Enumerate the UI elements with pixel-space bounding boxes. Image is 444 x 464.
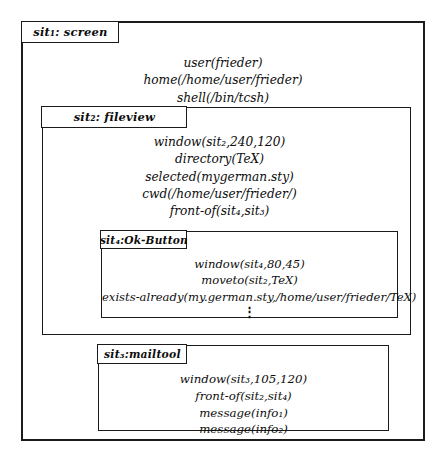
situation-tab-label-mailtool: sit₃:mailtool [104, 348, 181, 361]
situation-box-screen: sit₁: screen user(frieder) home(/home/us… [21, 21, 425, 441]
fact-item: user(frieder) [23, 55, 423, 72]
fact-item: selected(mygerman.sty) [43, 169, 396, 186]
situation-tab-fileview: sit₂: fileview [41, 106, 187, 128]
fact-item: message(info₂) [99, 421, 388, 438]
fact-list-screen: user(frieder) home(/home/user/frieder) s… [23, 55, 423, 107]
fact-item: window(sit₂,240,120) [43, 134, 396, 151]
situation-box-fileview: sit₂: fileview window(sit₂,240,120) dire… [42, 107, 411, 335]
fact-item: exists-already(my.german.sty,/home/user/… [102, 289, 397, 305]
fact-item: home(/home/user/frieder) [23, 72, 423, 89]
fact-list-fileview: window(sit₂,240,120) directory(TeX) sele… [43, 134, 396, 221]
fact-list-okbutton: window(sit₄,80,45) moveto(sit₂,TeX) exis… [102, 256, 397, 319]
fact-list-mailtool: window(sit₃,105,120) front-of(sit₂,sit₄)… [99, 371, 388, 438]
situation-box-okbutton: sit₄:Ok-Button window(sit₄,80,45) moveto… [101, 231, 398, 318]
situation-box-mailtool: sit₃:mailtool window(sit₃,105,120) front… [98, 345, 389, 431]
fact-item: front-of(sit₄,sit₃) [43, 203, 396, 220]
fact-item: window(sit₄,80,45) [102, 256, 397, 272]
fact-item: message(info₁) [99, 405, 388, 422]
vertical-ellipsis-icon: ⋮ [102, 305, 397, 319]
situation-tab-label-screen: sit₁: screen [33, 25, 107, 39]
fact-item: directory(TeX) [43, 151, 396, 168]
situation-tab-label-fileview: sit₂: fileview [74, 110, 156, 124]
situation-tab-mailtool: sit₃:mailtool [97, 344, 187, 364]
fact-item: front-of(sit₂,sit₄) [99, 388, 388, 405]
fact-item: window(sit₃,105,120) [99, 371, 388, 388]
situation-tab-screen: sit₁: screen [21, 21, 119, 43]
fact-item: moveto(sit₂,TeX) [102, 272, 397, 288]
fact-item: shell(/bin/tcsh) [23, 90, 423, 107]
situation-tab-okbutton: sit₄:Ok-Button [100, 230, 187, 249]
fact-item: cwd(/home/user/frieder/) [43, 186, 396, 203]
situation-tab-label-okbutton: sit₄:Ok-Button [100, 234, 188, 246]
